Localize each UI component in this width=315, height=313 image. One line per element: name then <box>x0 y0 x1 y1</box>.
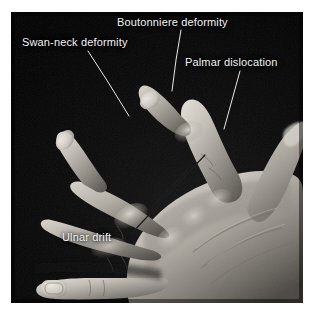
annotation-label-swan-neck: Swan-neck deformity <box>22 36 128 48</box>
figure-root: Boutonniere deformity Swan-neck deformit… <box>0 0 315 313</box>
annotation-label-ulnar-drift: Ulnar drift <box>62 231 111 243</box>
annotation-label-boutonniere: Boutonniere deformity <box>117 16 228 28</box>
annotation-label-palmar-dislocation: Palmar dislocation <box>185 56 278 68</box>
